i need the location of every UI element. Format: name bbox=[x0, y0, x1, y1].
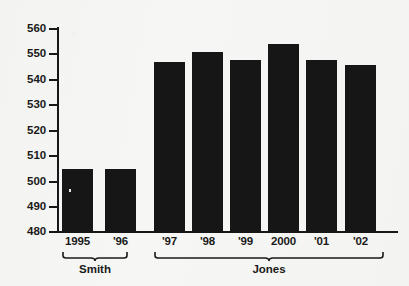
y-tick-500 bbox=[49, 181, 58, 183]
group-brace-smith bbox=[62, 252, 128, 261]
y-tick-label-510: 510 bbox=[6, 150, 46, 162]
y-tick-520 bbox=[49, 130, 58, 132]
y-tick-label-560: 560 bbox=[6, 23, 46, 35]
bar-98 bbox=[192, 52, 223, 233]
y-tick-label-520: 520 bbox=[6, 125, 46, 137]
x-label-1995: 1995 bbox=[53, 236, 102, 248]
y-tick-label-480: 480 bbox=[6, 226, 46, 238]
y-tick-550 bbox=[49, 53, 58, 55]
bar-97 bbox=[154, 62, 185, 233]
y-tick-label-550: 550 bbox=[6, 48, 46, 60]
group-brace-jones bbox=[154, 252, 384, 261]
x-label-02: '02 bbox=[336, 236, 385, 248]
bar-1995 bbox=[62, 169, 93, 233]
group-label-jones: Jones bbox=[154, 264, 384, 276]
y-tick-label-500: 500 bbox=[6, 176, 46, 188]
bar-99 bbox=[230, 60, 261, 233]
group-label-smith: Smith bbox=[62, 264, 128, 276]
y-tick-510 bbox=[49, 155, 58, 157]
y-tick-540 bbox=[49, 79, 58, 81]
bar-2000 bbox=[268, 44, 299, 233]
brace-jones-icon bbox=[154, 252, 384, 261]
x-label-96: '96 bbox=[96, 236, 145, 248]
y-tick-490 bbox=[49, 206, 58, 208]
scan-artifact bbox=[69, 189, 71, 192]
y-tick-480 bbox=[49, 231, 58, 233]
bar-02 bbox=[345, 65, 376, 233]
y-tick-530 bbox=[49, 104, 58, 106]
bar-96 bbox=[105, 169, 136, 233]
y-tick-560 bbox=[49, 28, 58, 30]
brace-smith-icon bbox=[62, 252, 128, 261]
bar-chart: 560 550 540 530 520 510 500 490 480 1995… bbox=[0, 0, 409, 286]
y-tick-label-490: 490 bbox=[6, 201, 46, 213]
y-tick-label-540: 540 bbox=[6, 74, 46, 86]
y-tick-label-530: 530 bbox=[6, 99, 46, 111]
bar-01 bbox=[306, 60, 337, 233]
